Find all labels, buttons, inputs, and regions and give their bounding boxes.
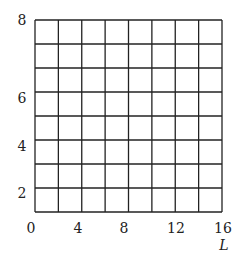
x-tick-label: 0 (27, 220, 36, 236)
x-tick-label: 8 (120, 220, 129, 236)
y-tick-label: 6 (18, 90, 27, 106)
x-axis-label: L (218, 237, 228, 253)
grid-lines (35, 20, 222, 212)
x-tick-label: 4 (74, 220, 83, 236)
y-tick-label: 2 (18, 185, 27, 201)
x-tick-labels: 0 4 8 12 16 (27, 220, 232, 236)
y-tick-label: 8 (18, 12, 27, 28)
y-tick-labels: 2 4 6 8 (18, 12, 27, 201)
x-tick-label: 12 (167, 220, 185, 236)
chart-plot: 0 4 8 12 16 2 4 6 8 L (0, 0, 239, 262)
y-tick-label: 4 (18, 138, 27, 154)
x-tick-label: 16 (214, 220, 232, 236)
